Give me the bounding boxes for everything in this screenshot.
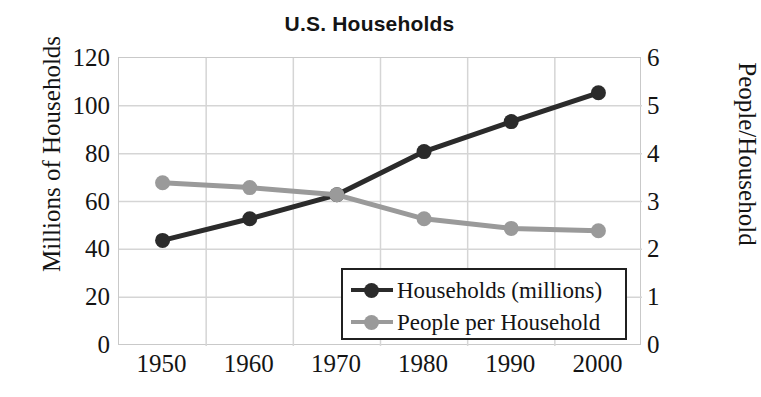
data-point-people-per-household (242, 180, 257, 195)
data-point-households-millions (417, 144, 432, 159)
x-tick-1950: 1950 (117, 351, 207, 376)
y-right-tick-1: 1 (647, 284, 705, 309)
legend-dot-households (364, 283, 379, 298)
x-tick-2000: 2000 (552, 351, 642, 376)
data-point-households-millions (242, 211, 257, 226)
y-left-tick-100: 100 (52, 93, 110, 118)
data-point-people-per-household (155, 175, 170, 190)
y-axis-right-ticks: 6543210 (647, 57, 705, 345)
y-axis-right-label: People/Household (733, 0, 761, 309)
legend-marker-people-per-household (351, 313, 393, 331)
x-axis-ticks: 195019601970198019902000 (118, 351, 641, 387)
y-right-tick-3: 3 (647, 189, 705, 214)
data-point-people-per-household (591, 223, 606, 238)
y-axis-left-ticks: 120100806040200 (52, 57, 110, 345)
y-left-tick-0: 0 (52, 332, 110, 357)
y-right-tick-2: 2 (647, 236, 705, 261)
y-left-tick-120: 120 (52, 45, 110, 70)
data-point-households-millions (155, 233, 170, 248)
y-right-tick-6: 6 (647, 45, 705, 70)
legend-dot-people-per-household (364, 315, 379, 330)
x-tick-1960: 1960 (204, 351, 294, 376)
x-tick-1970: 1970 (291, 351, 381, 376)
legend-item-households: Households (millions) (351, 274, 617, 306)
x-tick-1980: 1980 (378, 351, 468, 376)
data-point-households-millions (591, 85, 606, 100)
legend-label-households: Households (millions) (397, 279, 602, 302)
y-right-tick-0: 0 (647, 332, 705, 357)
y-right-tick-4: 4 (647, 141, 705, 166)
y-left-tick-60: 60 (52, 189, 110, 214)
data-point-people-per-household (417, 211, 432, 226)
data-point-households-millions (504, 114, 519, 129)
data-point-people-per-household (329, 187, 344, 202)
x-tick-1990: 1990 (465, 351, 555, 376)
chart-legend: Households (millions) People per Househo… (341, 268, 627, 340)
legend-marker-households (351, 281, 393, 299)
chart-title: U.S. Households (0, 12, 739, 36)
legend-label-people-per-household: People per Household (397, 311, 600, 334)
data-point-people-per-household (504, 221, 519, 236)
y-left-tick-80: 80 (52, 141, 110, 166)
y-left-tick-20: 20 (52, 284, 110, 309)
y-left-tick-40: 40 (52, 236, 110, 261)
legend-item-people-per-household: People per Household (351, 306, 617, 338)
y-right-tick-5: 5 (647, 93, 705, 118)
